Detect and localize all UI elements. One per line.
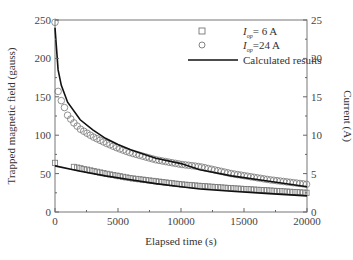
data-point-square [219, 185, 224, 190]
data-point-square [261, 188, 266, 193]
y-tick-label: 50 [40, 168, 52, 180]
legend-label: Calculated results [243, 54, 322, 66]
data-point-square [278, 189, 283, 194]
data-point-square [294, 190, 299, 195]
y-axis-label: Trapped magnetic field (gauss) [5, 47, 18, 184]
y-right-tick-label: 25 [311, 14, 323, 26]
data-point-square [258, 187, 263, 192]
data-point-square [196, 183, 201, 188]
data-point-square [245, 187, 250, 192]
right-y-axis-label: Current (A) [341, 90, 353, 142]
data-point-square [229, 186, 234, 191]
x-tick-label: 20000 [293, 215, 321, 227]
data-point-square [284, 189, 289, 194]
legend-circle-marker [199, 42, 205, 48]
y-tick-label: 100 [35, 129, 52, 141]
data-point-square [248, 187, 253, 192]
data-point-square [297, 190, 302, 195]
y-tick-label: 0 [46, 206, 52, 218]
data-point-circle [55, 88, 62, 95]
data-point-square [271, 188, 276, 193]
y-right-tick-label: 15 [311, 91, 323, 103]
data-point-square [222, 185, 227, 190]
data-point-square [255, 187, 260, 192]
x-axis-label: Elapsed time (s) [145, 235, 217, 248]
data-point-circle [58, 97, 65, 104]
data-point-square [242, 186, 247, 191]
legend-square-marker [199, 28, 205, 34]
data-point-square [238, 186, 243, 191]
y-tick-label: 200 [35, 52, 52, 64]
data-point-square [281, 189, 286, 194]
data-point-square [193, 183, 198, 188]
y-right-tick-label: 10 [311, 129, 323, 141]
y-right-tick-label: 5 [311, 168, 317, 180]
data-point-square [288, 189, 293, 194]
legend-label: Iop=24 A [242, 39, 280, 53]
y-tick-label: 150 [35, 91, 52, 103]
data-point-square [215, 185, 220, 190]
data-point-square [232, 186, 237, 191]
y-tick-label: 250 [35, 14, 52, 26]
data-point-square [212, 184, 217, 189]
data-point-square [291, 189, 296, 194]
calculated-line [55, 28, 307, 187]
data-point-square [206, 184, 211, 189]
legend: Iop= 6 AIop=24 ACalculated results [188, 25, 322, 66]
data-point-square [268, 188, 273, 193]
data-point-square [209, 184, 214, 189]
y-right-tick-label: 0 [311, 206, 317, 218]
x-tick-label: 10000 [167, 215, 195, 227]
data-point-square [251, 187, 256, 192]
x-tick-label: 15000 [230, 215, 258, 227]
data-point-square [199, 183, 204, 188]
x-tick-label: 5000 [107, 215, 130, 227]
chart: 0500010000150002000005010015020025005101… [0, 0, 353, 260]
data-point-square [265, 188, 270, 193]
data-point-square [274, 188, 279, 193]
data-point-circle [61, 104, 68, 111]
legend-label: Iop= 6 A [242, 25, 277, 39]
data-point-square [235, 186, 240, 191]
data-point-square [202, 184, 207, 189]
data-point-square [225, 185, 230, 190]
x-tick-label: 0 [52, 215, 58, 227]
